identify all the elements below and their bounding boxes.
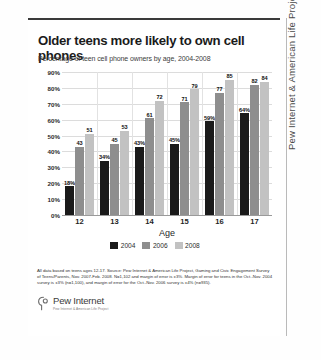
bar-value-label: 61 [146, 112, 152, 118]
chart-legend: 200420062008 [38, 242, 272, 249]
bar-2006-age-16: 77 [215, 93, 224, 215]
legend-swatch [110, 242, 118, 249]
bar-value-label: 72 [156, 94, 162, 100]
pew-logo-tagline: Pew Internet & American Life Project [53, 307, 109, 311]
bar-value-label: 45% [169, 137, 180, 143]
legend-label: 2006 [153, 242, 168, 249]
bar-wrap: 43% [135, 72, 144, 215]
bar-groups: 18%435134%455343%617245%717959%778564%82… [62, 72, 272, 215]
legend-item-2008: 2008 [175, 242, 200, 249]
bar-2008-age-17: 84 [260, 82, 269, 215]
bar-value-label: 43 [76, 140, 82, 146]
side-attribution-label: Pew Internet & American Life Project [286, 0, 297, 150]
bar-2008-age-13: 53 [120, 131, 129, 215]
bar-value-label: 34% [99, 154, 110, 160]
bar-2006-age-15: 71 [180, 102, 189, 215]
bar-2004-age-16: 59% [205, 121, 214, 215]
bar-wrap: 53 [120, 72, 129, 215]
bar-wrap: 84 [260, 72, 269, 215]
bar-value-label: 45 [111, 137, 117, 143]
bar-2006-age-14: 61 [145, 118, 154, 215]
bar-2006-age-17: 82 [250, 85, 259, 215]
bar-wrap: 79 [190, 72, 199, 215]
y-axis-tick: 10% [48, 196, 60, 203]
legend-label: 2004 [121, 242, 136, 249]
pew-logo-text-wrap: Pew Internet Pew Internet & American Lif… [53, 296, 109, 311]
bar-wrap: 45% [170, 72, 179, 215]
bar-value-label: 77 [216, 86, 222, 92]
bar-group-age-12: 18%4351 [62, 72, 97, 215]
bar-wrap: 34% [100, 72, 109, 215]
bar-2004-age-14: 43% [135, 147, 144, 215]
y-axis-tick: 50% [48, 132, 60, 139]
bar-value-label: 84 [261, 75, 267, 81]
pew-logo-name: Pew Internet [53, 296, 109, 306]
y-axis-tick: 70% [48, 100, 60, 107]
bar-wrap: 64% [240, 72, 249, 215]
bar-wrap: 59% [205, 72, 214, 215]
bar-2008-age-15: 79 [190, 89, 199, 215]
bar-2004-age-13: 34% [100, 161, 109, 215]
x-axis-ticks: 121314151617 [62, 217, 272, 226]
bar-2006-age-12: 43 [75, 147, 84, 215]
x-axis-tick-16: 16 [202, 217, 237, 226]
y-axis-tick: 40% [48, 148, 60, 155]
y-axis-tick: 0% [51, 212, 60, 219]
y-axis-tick: 80% [48, 84, 60, 91]
bar-value-label: 82 [251, 78, 257, 84]
bar-wrap: 71 [180, 72, 189, 215]
bar-2008-age-14: 72 [155, 101, 164, 215]
legend-swatch [142, 242, 150, 249]
bar-group-age-15: 45%7179 [167, 72, 202, 215]
bar-value-label: 71 [181, 96, 187, 102]
bar-2004-age-15: 45% [170, 144, 179, 216]
y-axis-tick: 90% [48, 69, 60, 76]
bar-group-age-17: 64%8284 [237, 72, 272, 215]
bar-wrap: 82 [250, 72, 259, 215]
bar-group-age-14: 43%6172 [132, 72, 167, 215]
x-axis-tick-15: 15 [167, 217, 202, 226]
bar-value-label: 85 [226, 73, 232, 79]
bar-value-label: 51 [86, 127, 92, 133]
bar-2008-age-16: 85 [225, 80, 234, 215]
bar-wrap: 72 [155, 72, 164, 215]
bar-wrap: 61 [145, 72, 154, 215]
bar-value-label: 18% [64, 180, 75, 186]
legend-label: 2008 [185, 242, 200, 249]
chart-footnote: All data based on teens ages 12-17. Sour… [37, 268, 273, 286]
x-axis-tick-12: 12 [62, 217, 97, 226]
bar-2008-age-12: 51 [85, 134, 94, 215]
x-axis-title: Age [62, 228, 272, 238]
bar-value-label: 64% [239, 107, 250, 113]
y-axis-tick: 20% [48, 180, 60, 187]
bar-value-label: 79 [191, 83, 197, 89]
plot-area: 90%80%70%60%50%40%30%20%10%0% 18%435134%… [38, 72, 272, 232]
bar-wrap: 45 [110, 72, 119, 215]
bar-value-label: 43% [134, 140, 145, 146]
legend-swatch [175, 242, 183, 249]
bar-group-age-13: 34%4553 [97, 72, 132, 215]
x-axis-tick-13: 13 [97, 217, 132, 226]
x-axis-tick-14: 14 [132, 217, 167, 226]
bar-wrap: 85 [225, 72, 234, 215]
bar-value-label: 53 [121, 124, 127, 130]
bar-wrap: 43 [75, 72, 84, 215]
bar-2006-age-13: 45 [110, 144, 119, 216]
y-axis-tick: 60% [48, 116, 60, 123]
bar-wrap: 51 [85, 72, 94, 215]
bar-wrap: 18% [65, 72, 74, 215]
bar-2004-age-12: 18% [65, 186, 74, 215]
legend-item-2004: 2004 [110, 242, 135, 249]
chart-card: Older teens more likely to own cell phon… [28, 18, 280, 336]
x-axis-tick-17: 17 [237, 217, 272, 226]
bar-value-label: 59% [204, 115, 215, 121]
pew-internet-logo: Pew Internet Pew Internet & American Lif… [37, 296, 109, 311]
y-axis: 90%80%70%60%50%40%30%20%10%0% [38, 72, 62, 215]
bar-wrap: 77 [215, 72, 224, 215]
chart-page: Older teens more likely to own cell phon… [0, 0, 321, 360]
legend-item-2006: 2006 [142, 242, 167, 249]
chart-subtitle: Percentage of teen cell phone owners by … [38, 55, 276, 62]
pew-logo-icon [37, 296, 50, 311]
bar-2004-age-17: 64% [240, 113, 249, 215]
bar-group-age-16: 59%7785 [202, 72, 237, 215]
